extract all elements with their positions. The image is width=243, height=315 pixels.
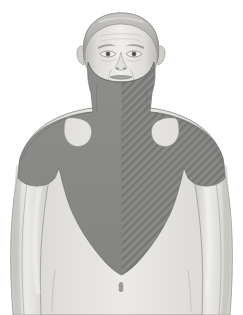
eye-right <box>100 51 116 57</box>
torso-shading-illustration: Anterior torso and face shading diagram … <box>0 0 243 315</box>
navel <box>119 282 124 292</box>
nostril-right <box>116 68 119 70</box>
hair-temple-left <box>157 38 158 60</box>
torso-shadow-right <box>16 166 19 315</box>
illustration-canvas: Anterior torso and face shading diagram … <box>0 0 243 315</box>
torso-shadow-left <box>224 166 227 315</box>
nostril-left <box>123 68 126 70</box>
hair-temple-right <box>84 38 85 60</box>
eye-left <box>126 51 142 57</box>
